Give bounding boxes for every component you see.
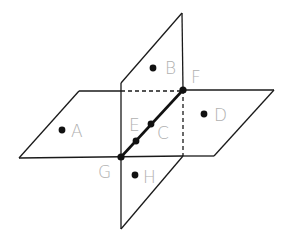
point-f [179, 86, 186, 93]
label-h: H [143, 167, 156, 187]
label-a: A [71, 121, 83, 141]
point-d [201, 111, 208, 118]
point-g [117, 153, 124, 160]
point-a [59, 127, 66, 134]
horizontal-plane [19, 90, 274, 158]
intersecting-planes-diagram: A B F D E C G H [0, 0, 288, 234]
label-f: F [191, 67, 201, 87]
label-b: B [165, 58, 176, 78]
label-d: D [214, 105, 227, 125]
point-e [133, 138, 140, 145]
label-g: G [98, 162, 111, 182]
label-e: E [129, 115, 140, 135]
label-c: C [157, 123, 169, 143]
point-h [132, 172, 139, 179]
point-b [150, 65, 157, 72]
point-c [148, 121, 155, 128]
